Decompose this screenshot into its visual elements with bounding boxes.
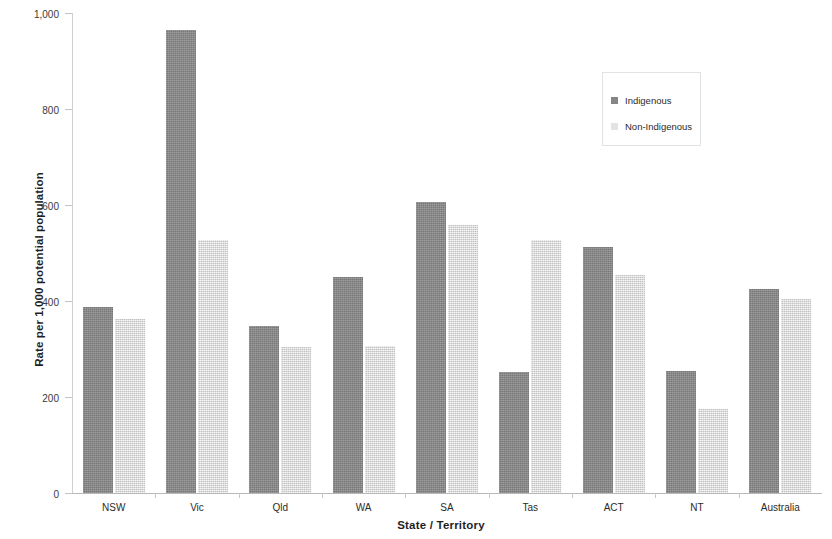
bar-group: NSW (72, 13, 155, 493)
x-axis-tick (322, 493, 323, 498)
x-axis-tick (739, 493, 740, 498)
x-axis-tick (239, 493, 240, 498)
y-axis-title: Rate per 1,000 potential population (26, 0, 52, 539)
bar-group: Tas (489, 13, 572, 493)
y-axis-tick: 800 (65, 109, 72, 110)
y-axis-tick-label: 1,000 (34, 8, 59, 19)
bar (666, 371, 696, 493)
bar-chart: Rate per 1,000 potential population 0200… (0, 0, 832, 539)
x-axis-tick-label: Australia (739, 502, 822, 513)
x-axis-line (72, 493, 822, 494)
x-axis-tick (489, 493, 490, 498)
x-axis-tick-label: WA (322, 502, 405, 513)
bar (749, 289, 779, 493)
x-axis-tick-label: SA (405, 502, 488, 513)
y-axis-tick: 200 (65, 397, 72, 398)
x-axis-tick-label: NT (655, 502, 738, 513)
plot-area: 02004006008001,000 NSWVicQldWASATasACTNT… (72, 13, 822, 493)
x-axis-title: State / Territory (0, 519, 832, 531)
y-axis-tick-label: 400 (42, 296, 59, 307)
y-axis-tick-label: 0 (53, 488, 59, 499)
bar (365, 346, 395, 493)
x-axis-tick-label: NSW (72, 502, 155, 513)
bar (249, 326, 279, 493)
bar (448, 225, 478, 493)
x-axis-tick-label: Tas (489, 502, 572, 513)
x-axis-tick-label: Qld (239, 502, 322, 513)
bar-group: Australia (739, 13, 822, 493)
y-axis-tick-label: 800 (42, 104, 59, 115)
bar (198, 240, 228, 493)
bar-group: WA (322, 13, 405, 493)
bar (166, 30, 196, 493)
bar (115, 319, 145, 493)
bar (781, 299, 811, 493)
y-axis-tick: 600 (65, 205, 72, 206)
y-axis-tick-label: 600 (42, 200, 59, 211)
bar (281, 347, 311, 493)
bar (499, 372, 529, 493)
x-axis-tick (572, 493, 573, 498)
bar (531, 240, 561, 493)
bar (333, 277, 363, 493)
x-axis-tick-label: ACT (572, 502, 655, 513)
x-axis-tick (155, 493, 156, 498)
legend-entry-indigenous: Indigenous (611, 87, 700, 113)
bar (83, 307, 113, 493)
x-axis-tick-label: Vic (155, 502, 238, 513)
bar (698, 409, 728, 493)
x-axis-tick (405, 493, 406, 498)
bar (416, 202, 446, 493)
chart-legend: Indigenous Non-Indigenous (602, 72, 701, 146)
legend-swatch-icon (611, 97, 618, 104)
legend-swatch-icon (611, 123, 618, 130)
y-axis-tick: 1,000 (65, 13, 72, 14)
x-axis-tick (655, 493, 656, 498)
y-axis-tick: 400 (65, 301, 72, 302)
bar-group: Vic (155, 13, 238, 493)
bar-group: Qld (239, 13, 322, 493)
legend-label: Non-Indigenous (625, 121, 692, 132)
bar (583, 247, 613, 493)
bar (615, 275, 645, 493)
y-axis-tick-label: 200 (42, 392, 59, 403)
legend-entry-non-indigenous: Non-Indigenous (611, 113, 700, 139)
bar-group: SA (405, 13, 488, 493)
legend-label: Indigenous (625, 95, 671, 106)
y-axis-tick: 0 (65, 493, 72, 494)
